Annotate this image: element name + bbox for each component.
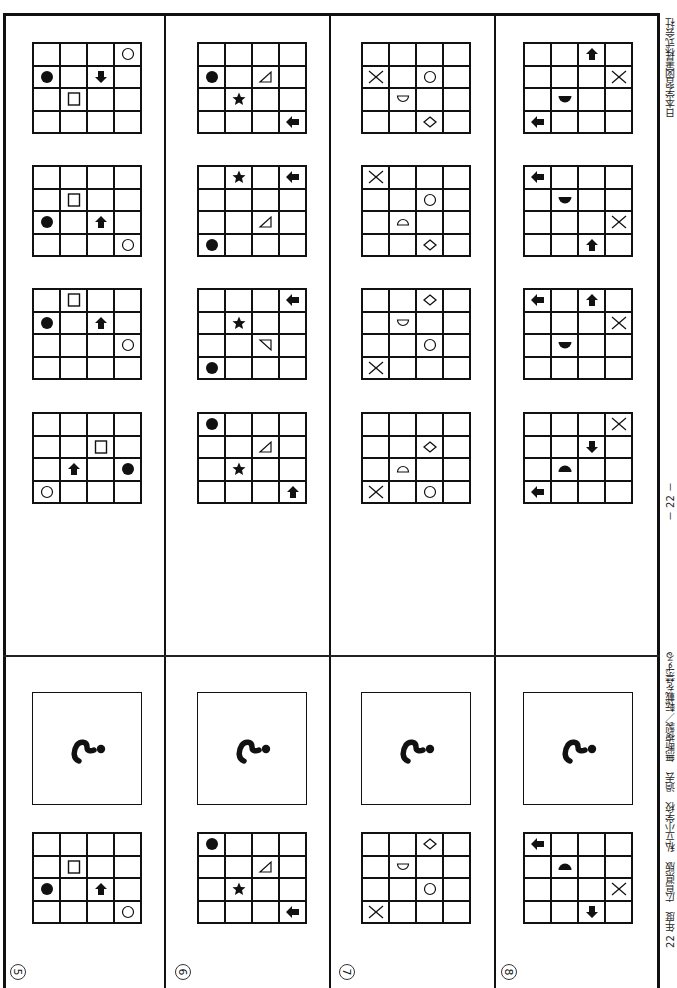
grid-cell	[198, 334, 225, 357]
answer-box[interactable]	[197, 692, 307, 805]
option-grid-4[interactable]	[523, 412, 633, 504]
grid-cell	[362, 189, 389, 212]
grid-cell	[279, 289, 306, 312]
example-grid	[32, 832, 142, 924]
circle-outline-icon	[37, 484, 57, 500]
option-grid-3[interactable]	[361, 288, 471, 380]
option-grid-1[interactable]	[523, 42, 633, 134]
grid-cell	[198, 234, 225, 257]
grid-cell	[524, 234, 551, 257]
option-grid-1[interactable]	[361, 42, 471, 134]
arrow-up-icon	[582, 46, 602, 62]
grid-cell	[551, 436, 578, 459]
grid-cell	[578, 856, 605, 879]
circle-filled-icon	[202, 69, 222, 85]
option-grid-4[interactable]	[361, 412, 471, 504]
grid-cell	[87, 436, 114, 459]
grid-cell	[389, 901, 416, 924]
grid-cell	[60, 88, 87, 111]
grid-cell	[605, 334, 632, 357]
grid-cell	[87, 66, 114, 89]
grid-cell	[279, 436, 306, 459]
grid-cell	[87, 481, 114, 504]
grid-cell	[279, 901, 306, 924]
grid-cell	[225, 312, 252, 335]
option-grid-2[interactable]	[32, 165, 142, 257]
grid-cell	[416, 413, 443, 436]
option-grid-2[interactable]	[523, 165, 633, 257]
grid-cell	[60, 833, 87, 856]
grid-cell	[443, 901, 470, 924]
grid-cell	[252, 833, 279, 856]
problem-number: 5	[10, 964, 26, 980]
grid-cell	[362, 289, 389, 312]
answer-box[interactable]	[361, 692, 471, 805]
arrow-left-icon	[528, 292, 548, 308]
grid-cell	[87, 111, 114, 134]
grid-cell	[389, 481, 416, 504]
arrow-left-icon	[528, 836, 548, 852]
grid-cell	[605, 436, 632, 459]
grid-cell	[416, 234, 443, 257]
grid-cell	[416, 334, 443, 357]
answer-box[interactable]	[523, 692, 633, 805]
grid-cell	[578, 234, 605, 257]
grid-cell	[416, 289, 443, 312]
grid-cell	[389, 458, 416, 481]
semicircle-filled-up-icon	[555, 461, 575, 477]
grid-cell	[578, 413, 605, 436]
grid-cell	[362, 833, 389, 856]
grid-cell	[60, 289, 87, 312]
grid-cell	[33, 481, 60, 504]
grid-cell	[416, 111, 443, 134]
grid-cell	[605, 878, 632, 901]
grid-cell	[578, 166, 605, 189]
option-grid-4[interactable]	[197, 412, 307, 504]
grid-cell	[60, 481, 87, 504]
option-grid-1[interactable]	[197, 42, 307, 134]
option-grid-4[interactable]	[32, 412, 142, 504]
grid-cell	[60, 43, 87, 66]
grid-cell	[252, 357, 279, 380]
grid-cell	[389, 312, 416, 335]
arrow-up-icon	[582, 237, 602, 253]
grid-cell	[362, 458, 389, 481]
grid-cell	[551, 856, 578, 879]
grid-cell	[198, 189, 225, 212]
grid-cell	[389, 66, 416, 89]
grid-cell	[551, 88, 578, 111]
grid-cell	[551, 211, 578, 234]
grid-cell	[605, 901, 632, 924]
grid-cell	[578, 334, 605, 357]
grid-cell	[578, 436, 605, 459]
arrow-left-icon	[283, 169, 303, 185]
arrow-down-icon	[582, 904, 602, 920]
grid-cell	[114, 234, 141, 257]
grid-cell	[551, 833, 578, 856]
grid-cell	[114, 856, 141, 879]
grid-cell	[60, 166, 87, 189]
option-grid-1[interactable]	[32, 42, 142, 134]
circle-outline-icon	[118, 904, 138, 920]
grid-cell	[114, 413, 141, 436]
grid-cell	[524, 66, 551, 89]
answer-box[interactable]	[32, 692, 142, 805]
semicircle-filled-down-icon	[555, 192, 575, 208]
option-grid-2[interactable]	[197, 165, 307, 257]
option-grid-2[interactable]	[361, 165, 471, 257]
grid-cell	[252, 66, 279, 89]
option-grid-3[interactable]	[523, 288, 633, 380]
grid-cell	[443, 833, 470, 856]
circle-filled-icon	[37, 69, 57, 85]
grid-cell	[198, 901, 225, 924]
option-grid-3[interactable]	[32, 288, 142, 380]
semicircle-outline-up-icon	[393, 461, 413, 477]
grid-cell	[551, 289, 578, 312]
square-outline-icon	[64, 292, 84, 308]
grid-cell	[551, 481, 578, 504]
grid-cell	[362, 88, 389, 111]
grid-cell	[279, 211, 306, 234]
grid-cell	[524, 481, 551, 504]
circle-outline-icon	[420, 192, 440, 208]
option-grid-3[interactable]	[197, 288, 307, 380]
